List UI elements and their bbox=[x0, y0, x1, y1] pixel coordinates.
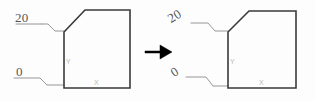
left-lower-value-label: 0 bbox=[16, 65, 23, 78]
leader-line-lower-right bbox=[186, 77, 228, 86]
right-chamfered-rectangle bbox=[228, 11, 296, 88]
left-axis-label-y: Y bbox=[66, 58, 71, 65]
right-axis-label-y: Y bbox=[230, 58, 235, 65]
figure-canvas: 20 0 Y X 20 0 Y X bbox=[0, 0, 315, 101]
transform-arrow-group bbox=[145, 45, 172, 59]
left-upper-value-label: 20 bbox=[15, 11, 29, 24]
leader-line-upper-right bbox=[191, 23, 228, 31]
right-axis-label-x: X bbox=[259, 79, 264, 86]
arrow-right-icon bbox=[145, 45, 172, 59]
left-axis-label-x: X bbox=[94, 79, 99, 86]
left-chamfered-rectangle bbox=[64, 10, 130, 88]
left-panel-group bbox=[14, 10, 130, 88]
leader-line-lower-left bbox=[14, 78, 64, 85]
leader-line-upper-left bbox=[16, 24, 64, 31]
figure-vector-layer bbox=[0, 0, 315, 101]
right-panel-group bbox=[186, 11, 296, 88]
